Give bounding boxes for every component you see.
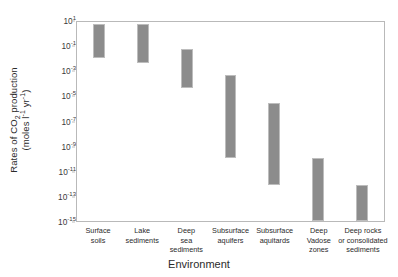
- y-axis-tick-mark: [72, 46, 75, 47]
- x-axis-title: Environment: [0, 258, 398, 270]
- y-axis-tick-label: 10-1: [4, 41, 76, 51]
- y-axis-tick-mark: [72, 222, 75, 223]
- y-axis-tick-mark: [72, 171, 75, 172]
- y-axis-tick-label: 101: [4, 16, 76, 26]
- plot-area: [76, 21, 385, 222]
- x-axis-tick-label: Deep rocksor consolidatedsediments: [330, 226, 396, 255]
- bar: [268, 103, 280, 185]
- y-axis: 10110-110-310-510-710-910-1110-1310-15: [0, 21, 76, 222]
- y-axis-tick-mark: [72, 71, 75, 72]
- x-axis-tick-label-line: or consolidated: [330, 236, 396, 246]
- y-axis-tick-mark: [72, 146, 75, 147]
- y-axis-tick-label: 10-9: [4, 142, 76, 152]
- bar: [312, 158, 324, 221]
- x-axis-tick-label-line: sediments: [330, 245, 396, 255]
- y-axis-tick-mark: [72, 121, 75, 122]
- bar: [137, 24, 149, 63]
- y-axis-tick-mark: [72, 196, 75, 197]
- y-axis-tick-mark: [72, 21, 75, 22]
- x-axis-tick-label-line: sediments: [160, 245, 212, 255]
- bar: [93, 24, 105, 58]
- y-axis-tick-label: 10-3: [4, 66, 76, 76]
- chart-figure: Rates of CO2 production (moles l-1 yr-1)…: [0, 0, 398, 277]
- y-axis-tick-label: 10-7: [4, 117, 76, 127]
- y-axis-tick-label: 10-5: [4, 91, 76, 101]
- x-axis-tick-label-line: Deep rocks: [330, 226, 396, 236]
- y-axis-tick-label: 10-13: [4, 192, 76, 202]
- bar: [181, 49, 193, 88]
- plot-inner: [77, 22, 384, 221]
- y-axis-tick-label: 10-11: [4, 167, 76, 177]
- bar: [225, 75, 237, 157]
- y-axis-tick-mark: [72, 96, 75, 97]
- y-axis-tick-label: 10-15: [4, 217, 76, 227]
- bar: [356, 185, 368, 221]
